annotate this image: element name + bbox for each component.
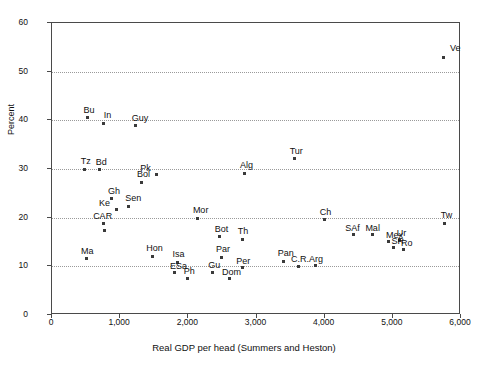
data-point-label: Ph (184, 267, 195, 276)
x-tick-label: 3,000 (234, 318, 278, 327)
data-point-marker (402, 248, 405, 251)
data-point-label: Tur (290, 147, 303, 156)
data-point-marker (115, 208, 118, 211)
x-tick-label: 4,000 (302, 318, 346, 327)
data-point-label: Ma (81, 247, 94, 256)
scatter-plot-figure: Percent Real GDP per head (Summers and H… (0, 0, 488, 373)
data-point-marker (83, 168, 86, 171)
data-point-marker (243, 172, 246, 175)
data-point-label: C.R. (291, 255, 309, 264)
data-point-marker (442, 56, 445, 59)
data-point-marker (151, 255, 154, 258)
data-point-label: Mor (193, 206, 209, 215)
data-point-label: Hon (146, 244, 163, 253)
data-point-marker (323, 218, 326, 221)
data-point-marker (173, 271, 176, 274)
x-tick-mark (119, 314, 120, 318)
y-tick-label: 40 (0, 115, 28, 124)
data-point-label: Bu (83, 106, 94, 115)
data-point-label: Tz (81, 157, 91, 166)
data-point-label: Bot (215, 225, 229, 234)
data-point-marker (102, 122, 105, 125)
x-tick-label: 2,000 (165, 318, 209, 327)
gridline (52, 169, 459, 170)
data-point-label: Ve (450, 44, 461, 53)
data-point-label: Bd (96, 158, 107, 167)
data-point-label: Isa (172, 250, 184, 259)
gridline (52, 120, 459, 121)
data-point-marker (140, 181, 143, 184)
data-point-marker (211, 271, 214, 274)
data-point-label: Alg (240, 161, 253, 170)
data-point-label: Ro (401, 239, 413, 248)
data-point-marker (282, 260, 285, 263)
x-tick-mark (460, 314, 461, 318)
data-point-marker (134, 124, 137, 127)
y-tick-label: 30 (0, 164, 28, 173)
data-point-marker (392, 246, 395, 249)
gridline (52, 218, 459, 219)
data-point-label: CAR (93, 212, 112, 221)
y-tick-label: 60 (0, 18, 28, 27)
data-point-marker (155, 173, 158, 176)
data-point-marker (241, 266, 244, 269)
data-point-marker (218, 235, 221, 238)
gridline (52, 266, 459, 267)
data-point-marker (102, 222, 105, 225)
data-point-label: Mal (365, 224, 380, 233)
data-point-marker (297, 265, 300, 268)
data-point-marker (103, 229, 106, 232)
data-point-label: Par (216, 245, 230, 254)
x-tick-mark (392, 314, 393, 318)
data-point-marker (127, 205, 130, 208)
data-point-marker (110, 197, 113, 200)
data-point-marker (98, 168, 101, 171)
data-point-label: Sen (125, 194, 141, 203)
data-point-label: Th (238, 227, 249, 236)
data-point-label: Ke (99, 199, 110, 208)
x-tick-label: 5,000 (370, 318, 414, 327)
data-point-marker (196, 217, 199, 220)
data-point-marker (352, 233, 355, 236)
data-point-label: Ch (320, 208, 332, 217)
y-tick-label: 10 (0, 261, 28, 270)
data-point-label: Per (236, 257, 250, 266)
data-point-marker (241, 238, 244, 241)
data-point-marker (387, 240, 390, 243)
data-point-marker (86, 116, 89, 119)
data-point-marker (443, 222, 446, 225)
y-tick-label: 20 (0, 213, 28, 222)
x-tick-mark (324, 314, 325, 318)
data-point-label: Tw (441, 211, 453, 220)
data-point-marker (186, 277, 189, 280)
y-tick-label: 50 (0, 67, 28, 76)
plot-area: VeBuInGuyTurTzBdPkAlgBolGhSenKeMorChTwCA… (51, 22, 460, 314)
data-point-label: Bol (137, 170, 150, 179)
x-axis-label: Real GDP per head (Summers and Heston) (0, 342, 488, 353)
data-point-marker (85, 257, 88, 260)
data-point-marker (293, 157, 296, 160)
data-point-label: In (104, 111, 112, 120)
data-point-label: SAf (345, 224, 360, 233)
x-tick-label: 6,000 (438, 318, 482, 327)
data-point-marker (314, 264, 317, 267)
x-tick-label: 0 (29, 318, 73, 327)
data-point-label: Guy (132, 114, 149, 123)
x-tick-mark (256, 314, 257, 318)
data-point-marker (228, 277, 231, 280)
data-point-label: Dom (222, 268, 241, 277)
data-point-marker (371, 233, 374, 236)
data-point-label: Gu (208, 261, 220, 270)
y-tick-label: 0 (0, 310, 28, 319)
x-tick-mark (51, 314, 52, 318)
x-tick-mark (187, 314, 188, 318)
data-point-marker (220, 256, 223, 259)
x-tick-label: 1,000 (97, 318, 141, 327)
data-point-label: Arg (309, 255, 323, 264)
gridline (52, 72, 459, 73)
data-point-label: Gh (108, 187, 120, 196)
